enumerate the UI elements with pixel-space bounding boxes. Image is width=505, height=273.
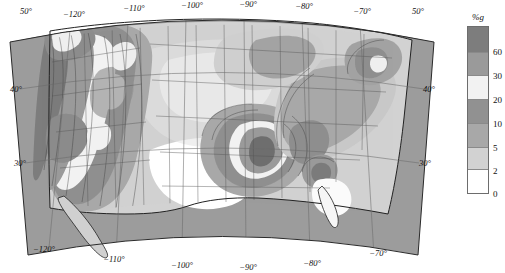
legend-tick-60: 60: [493, 48, 502, 57]
axis-label-left-1: 30°: [13, 158, 27, 168]
axis-label-right-1: 30°: [418, 158, 432, 168]
legend-swatch-30-60: [468, 53, 488, 77]
axis-label-top-1: −120°: [63, 9, 85, 19]
legend-swatch-5-10: [468, 124, 488, 148]
legend-tick-20: 20: [493, 96, 502, 105]
legend-swatch-60: [468, 27, 488, 53]
axis-label-top-7: 50°: [412, 6, 425, 16]
legend-swatch-0-2: [468, 170, 488, 193]
axis-labels-top: 50° −120° −110° −100° −90° −80° −70° 50°: [20, 0, 425, 19]
axis-label-top-4: −90°: [239, 0, 257, 9]
axis-label-top-3: −100°: [181, 0, 203, 10]
legend-swatch-2-5: [468, 148, 488, 171]
axis-label-bottom-4: −80°: [303, 258, 321, 268]
legend-tick-2: 2: [493, 167, 498, 176]
axis-label-left-0: 40°: [10, 84, 23, 94]
legend-tick-0: 0: [493, 190, 498, 199]
legend-tick-labels: 60302010520: [491, 26, 505, 194]
hazard-map-svg: 50° −120° −110° −100° −90° −80° −70° 50°…: [0, 0, 445, 273]
axis-labels-bottom: −120° −110° −100° −90° −80° −70°: [33, 244, 387, 272]
axis-label-bottom-0: −120°: [33, 244, 55, 254]
axis-label-right-0: 40°: [423, 84, 436, 94]
legend-tick-30: 30: [493, 72, 502, 81]
legend-swatch-10-20: [468, 100, 488, 124]
legend-tick-5: 5: [493, 144, 498, 153]
axis-label-bottom-5: −70°: [369, 248, 387, 258]
axis-label-bottom-1: −110°: [103, 254, 125, 264]
legend: %g 60302010520: [465, 12, 505, 202]
axis-label-top-6: −70°: [353, 6, 371, 16]
axis-label-top-2: −110°: [123, 3, 145, 13]
legend-swatch-20-30: [468, 76, 488, 100]
land-mass: [33, 19, 412, 216]
axis-label-bottom-2: −100°: [171, 260, 193, 270]
legend-title: %g: [465, 12, 491, 22]
axis-label-top-5: −80°: [295, 1, 313, 11]
map-panel: 50° −120° −110° −100° −90° −80° −70° 50°…: [0, 0, 445, 273]
seismic-hazard-figure: 50° −120° −110° −100° −90° −80° −70° 50°…: [0, 0, 505, 273]
legend-color-bar: [467, 26, 489, 194]
legend-tick-10: 10: [493, 120, 502, 129]
axis-label-bottom-3: −90°: [239, 262, 257, 272]
axis-label-top-0: 50°: [20, 6, 33, 16]
